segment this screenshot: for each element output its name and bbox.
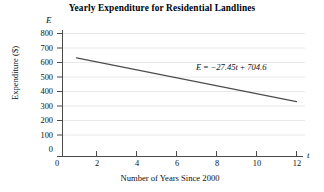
ytick-label-300: 300 — [27, 102, 53, 111]
xtick-label-2: 2 — [88, 159, 106, 168]
equation-intercept: 704.6 — [247, 62, 266, 72]
ytick-label-500: 500 — [27, 73, 53, 82]
xtick-label-4: 4 — [128, 159, 146, 168]
xtick-label-12: 12 — [288, 159, 306, 168]
equation-equals: = — [203, 62, 208, 72]
x-axis-title: Number of Years Since 2000 — [40, 173, 300, 183]
equation-lhs: E — [196, 62, 201, 72]
equation-annotation: E = −27.45t + 704.6 — [196, 62, 266, 72]
ytick-label-100: 100 — [27, 131, 53, 140]
ytick-label-200: 200 — [27, 116, 53, 125]
ytick-label-0: 0 — [27, 145, 53, 154]
y-axis-title: Expenditure ($) — [10, 30, 20, 116]
ytick-label-400: 400 — [27, 87, 53, 96]
xtick-label-8: 8 — [208, 159, 226, 168]
xtick-label-0: 0 — [48, 159, 66, 168]
ytick-label-600: 600 — [27, 58, 53, 67]
x-axis-variable-label: t — [307, 150, 310, 160]
y-tick-marks — [57, 34, 62, 136]
y-axis-variable-label: E — [46, 15, 52, 25]
gridlines — [62, 34, 305, 136]
equation-slope-term: −27.45t — [210, 62, 238, 72]
ytick-label-800: 800 — [27, 29, 53, 38]
chart-figure: Yearly Expenditure for Residential Landl… — [0, 0, 324, 192]
equation-plus: + — [240, 62, 245, 72]
xtick-label-10: 10 — [248, 159, 266, 168]
ytick-label-700: 700 — [27, 44, 53, 53]
xtick-label-6: 6 — [168, 159, 186, 168]
